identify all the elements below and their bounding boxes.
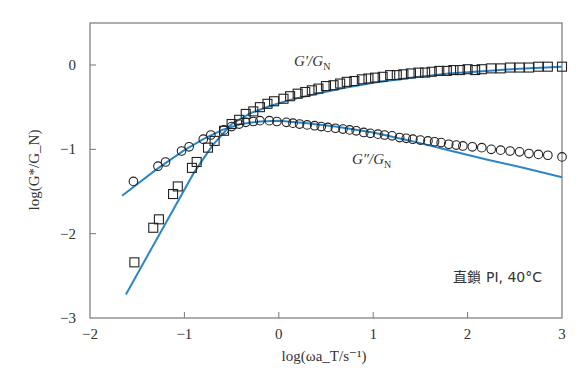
circle-marker — [487, 145, 496, 154]
series-label-g-double-prime: G″/GN — [352, 151, 391, 170]
circle-marker — [129, 177, 138, 186]
x-axis-title: log(ωa_T/s⁻¹) — [282, 348, 367, 365]
circle-marker — [534, 150, 543, 159]
square-marker — [130, 258, 139, 267]
sample-annotation: 直鎖 PI, 40°C — [453, 269, 542, 285]
fit-line — [126, 67, 562, 295]
y-tick-label: 0 — [69, 57, 77, 73]
circle-marker — [468, 143, 477, 152]
circle-marker — [515, 148, 524, 157]
x-tick-label: 0 — [275, 326, 283, 342]
x-tick-label: −1 — [176, 326, 192, 342]
x-tick-label: −2 — [82, 326, 98, 342]
circle-marker — [544, 151, 553, 160]
circle-marker — [525, 149, 534, 158]
square-marker — [149, 223, 158, 232]
x-tick-label: 3 — [558, 326, 566, 342]
square-marker — [154, 215, 163, 224]
y-tick-label: −1 — [60, 141, 76, 157]
y-axis-title: log(G*/G_N) — [26, 130, 43, 211]
circle-marker — [496, 146, 505, 155]
fit-lines — [122, 67, 562, 295]
x-tick-label: 1 — [369, 326, 377, 342]
axis-ticks: −2−10123−3−2−10 — [60, 57, 566, 342]
y-tick-label: −2 — [60, 226, 76, 242]
series-label-g-prime: G′/GN — [294, 53, 330, 72]
circle-marker — [506, 147, 515, 156]
x-tick-label: 2 — [464, 326, 472, 342]
circle-marker — [477, 143, 486, 152]
circle-marker — [459, 142, 468, 151]
y-tick-label: −3 — [60, 310, 76, 326]
chart: −2−10123−3−2−10 log(ωa_T/s⁻¹) log(G*/G_N… — [0, 0, 584, 387]
data-points — [129, 62, 566, 267]
square-marker — [496, 64, 505, 73]
square-marker — [506, 63, 515, 72]
